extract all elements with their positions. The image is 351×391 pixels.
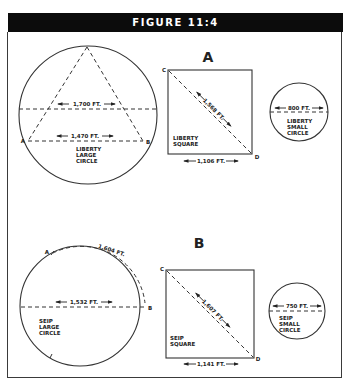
- liberty-square: 1,568 FT. C D LIBERTY SQUARE 1,106 FT.: [162, 67, 260, 164]
- triangle-side-left: [28, 47, 87, 141]
- seip-large-circle: 1,604 FT. 1,532 FT. A B SEIP LARGE CIRCL…: [20, 243, 152, 366]
- panel-a: A 1,700 FT. 1,470 FT. A B LIBERTY LARGE …: [19, 46, 328, 184]
- seip-small-circle: 750 FT. SEIP SMALL CIRCLE: [269, 283, 325, 339]
- liberty-large-circle-name-3: CIRCLE: [76, 158, 98, 164]
- panel-a-heading: A: [203, 49, 214, 65]
- seip-diagonal-arrow-right: [222, 319, 230, 327]
- seip-large-circle-outline: [20, 246, 140, 366]
- seip-square-name-2: SQUARE: [170, 341, 195, 347]
- point-d-label: D: [255, 154, 260, 160]
- seip-square: 1,607 FT. C D SEIP SQUARE 1,141 FT.: [160, 266, 261, 367]
- point-a-label: A: [21, 138, 26, 144]
- seip-large-circle-name-3: CIRCLE: [39, 330, 61, 336]
- panel-b-heading: B: [194, 235, 205, 251]
- liberty-diagonal-label: 1,568 FT.: [202, 97, 226, 121]
- liberty-side-label: 1,106 FT.: [197, 158, 225, 164]
- panel-b: B 1,604 FT. 1,532 FT. A B SEIP LARGE CIR…: [20, 235, 325, 367]
- liberty-small-circle: 800 FT. LIBERTY SMALL CIRCLE: [270, 83, 328, 141]
- liberty-small-diameter-label: 800 FT.: [288, 105, 310, 111]
- triangle-side-right: [87, 47, 143, 141]
- seip-diagonal-label: 1,607 FT.: [201, 298, 225, 322]
- diagonal-arrow-right: [223, 118, 231, 126]
- lower-chord-label: 1,470 FT.: [71, 133, 99, 139]
- seip-point-c-label: C: [160, 266, 164, 272]
- liberty-square-name-2: SQUARE: [173, 141, 198, 147]
- upper-chord-label: 1,700 FT.: [73, 101, 101, 107]
- seip-small-diameter-label: 750 FT.: [286, 303, 308, 309]
- point-b-label: B: [146, 139, 150, 145]
- seip-side-label: 1,141 FT.: [197, 361, 225, 367]
- point-c-label: C: [162, 67, 166, 73]
- figure-diagram: A 1,700 FT. 1,470 FT. A B LIBERTY LARGE …: [0, 0, 351, 391]
- seip-point-b-label: B: [148, 305, 152, 311]
- seip-point-d-label: D: [256, 356, 261, 362]
- liberty-large-circle: 1,700 FT. 1,470 FT. A B LIBERTY LARGE CI…: [19, 46, 157, 184]
- arc-tick-bottom: [50, 354, 52, 358]
- seip-small-circle-name-3: CIRCLE: [279, 327, 301, 333]
- seip-diameter-label: 1,532 FT.: [70, 299, 98, 305]
- seip-point-a-label: A: [45, 249, 50, 255]
- liberty-small-circle-name-3: CIRCLE: [287, 130, 309, 136]
